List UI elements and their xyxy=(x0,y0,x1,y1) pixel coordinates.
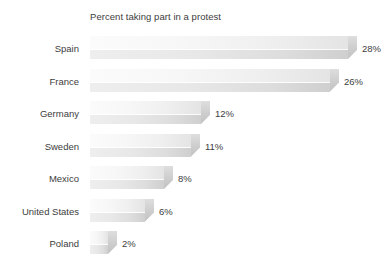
bar-bottom-face xyxy=(90,245,108,254)
value-label: 26% xyxy=(344,76,363,88)
bar-end-cap xyxy=(348,36,357,59)
bar-top-face xyxy=(90,231,108,245)
category-label: Spain xyxy=(55,43,79,55)
bar-row: France26% xyxy=(0,69,390,99)
bar xyxy=(90,36,348,63)
plot-area: Spain28%France26%Germany12%Sweden11%Mexi… xyxy=(0,32,390,265)
bar-bottom-face xyxy=(90,148,191,157)
bar-end-cap xyxy=(330,69,339,92)
bar-top-face xyxy=(90,166,164,180)
bar-bottom-face xyxy=(90,83,330,92)
category-label: Mexico xyxy=(49,173,79,185)
category-label: Germany xyxy=(40,108,79,120)
bar-bottom-face xyxy=(90,50,348,59)
value-label: 6% xyxy=(159,206,173,218)
bar-bottom-face xyxy=(90,180,164,189)
chart-title: Percent taking part in a protest xyxy=(90,11,221,22)
bar-row: Spain28% xyxy=(0,36,390,66)
bar-top-face xyxy=(90,69,330,83)
bar-top-face xyxy=(90,134,191,148)
bar-top-face xyxy=(90,101,201,115)
bar-top-face xyxy=(90,199,145,213)
bar-top-face xyxy=(90,36,348,50)
bar-bottom-face xyxy=(90,213,145,222)
bar xyxy=(90,134,191,161)
bar xyxy=(90,231,108,258)
bar-row: Mexico8% xyxy=(0,166,390,196)
bar xyxy=(90,101,201,128)
bar xyxy=(90,166,164,193)
value-label: 11% xyxy=(205,141,223,153)
bar-end-cap xyxy=(108,231,117,254)
category-label: France xyxy=(49,76,79,88)
bar-end-cap xyxy=(191,134,200,157)
bar-bottom-face xyxy=(90,115,201,124)
value-label: 2% xyxy=(122,238,136,250)
bar-end-cap xyxy=(201,101,210,124)
value-label: 28% xyxy=(362,43,381,55)
bar-row: Sweden11% xyxy=(0,134,390,164)
chart-container: Percent taking part in a protest Spain28… xyxy=(0,0,390,265)
bar-end-cap xyxy=(164,166,173,189)
category-label: United States xyxy=(22,206,79,218)
value-label: 8% xyxy=(178,173,192,185)
bar-row: Poland2% xyxy=(0,231,390,261)
bar-end-cap xyxy=(145,199,154,222)
bar xyxy=(90,199,145,226)
bar-row: United States6% xyxy=(0,199,390,229)
value-label: 12% xyxy=(215,108,234,120)
category-label: Sweden xyxy=(45,141,79,153)
bar-row: Germany12% xyxy=(0,101,390,131)
category-label: Poland xyxy=(49,238,79,250)
bar xyxy=(90,69,330,96)
